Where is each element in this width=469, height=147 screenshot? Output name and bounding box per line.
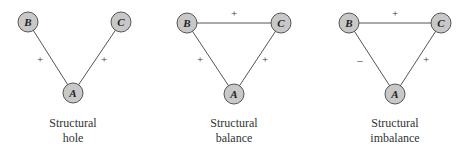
edge-sign-a-c: + bbox=[262, 53, 268, 65]
node-b: B bbox=[177, 13, 197, 33]
svg-text:B: B bbox=[182, 17, 190, 29]
edge-a-b bbox=[349, 23, 395, 94]
svg-text:A: A bbox=[229, 88, 237, 100]
caption-line-2: hole bbox=[13, 131, 133, 146]
caption-line-2: balance bbox=[174, 131, 294, 146]
edge-sign-a-b: – bbox=[356, 54, 363, 66]
node-c: C bbox=[111, 12, 131, 32]
svg-text:C: C bbox=[437, 17, 445, 29]
svg-text:A: A bbox=[390, 88, 398, 100]
caption-line-1: Structural bbox=[335, 116, 455, 131]
caption-structural-balance: Structural balance bbox=[174, 116, 294, 146]
edge-sign-a-c: + bbox=[101, 53, 107, 65]
diagram-structural-imbalance: + – + B C A bbox=[339, 7, 451, 104]
caption-line-1: Structural bbox=[174, 116, 294, 131]
edge-sign-b-c: + bbox=[392, 7, 398, 19]
svg-text:A: A bbox=[68, 87, 76, 99]
node-a: A bbox=[224, 84, 244, 104]
svg-text:B: B bbox=[23, 16, 31, 28]
node-b: B bbox=[339, 13, 359, 33]
node-c: C bbox=[271, 13, 291, 33]
edge-sign-a-c: + bbox=[423, 53, 429, 65]
caption-structural-imbalance: Structural imbalance bbox=[335, 116, 455, 146]
edge-sign-a-b: + bbox=[197, 53, 203, 65]
edge-a-c bbox=[73, 22, 121, 93]
svg-text:C: C bbox=[277, 17, 285, 29]
diagram-structural-balance: + + + B C A bbox=[177, 7, 291, 104]
edge-a-c bbox=[234, 23, 281, 94]
node-b: B bbox=[18, 12, 38, 32]
caption-line-1: Structural bbox=[13, 116, 133, 131]
svg-text:C: C bbox=[117, 16, 125, 28]
edge-sign-b-c: + bbox=[231, 7, 237, 19]
node-a: A bbox=[385, 84, 405, 104]
caption-structural-hole: Structural hole bbox=[13, 116, 133, 146]
diagram-structural-hole: + + B C A bbox=[18, 12, 131, 103]
svg-text:B: B bbox=[344, 17, 352, 29]
edge-a-c bbox=[395, 23, 441, 94]
edge-sign-a-b: + bbox=[37, 53, 43, 65]
edge-a-b bbox=[187, 23, 234, 94]
edge-a-b bbox=[28, 22, 73, 93]
node-c: C bbox=[431, 13, 451, 33]
caption-line-2: imbalance bbox=[335, 131, 455, 146]
node-a: A bbox=[63, 83, 83, 103]
